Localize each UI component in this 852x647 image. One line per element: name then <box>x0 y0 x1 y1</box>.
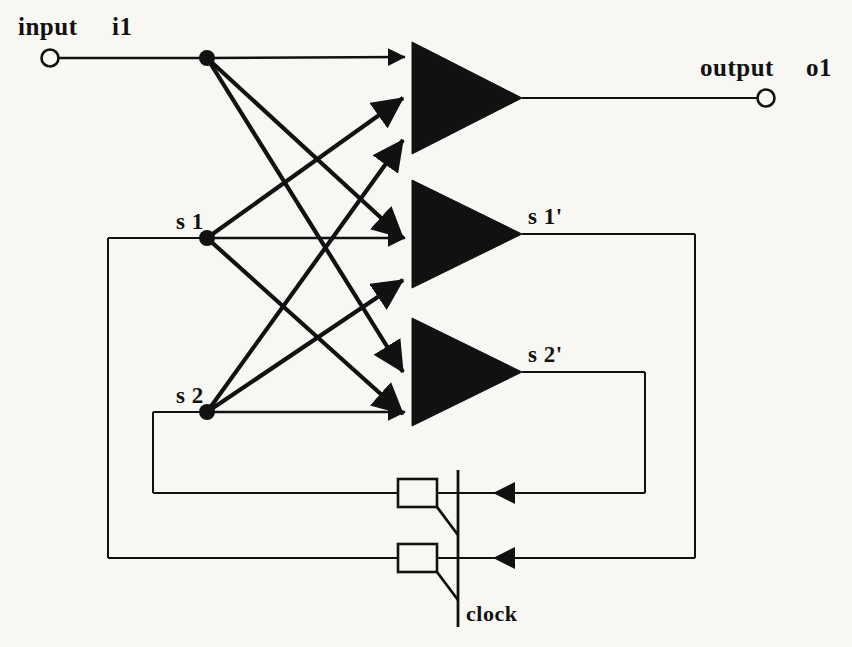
clock-stub-latch-s2 <box>437 507 458 535</box>
wire-i1-to-gate-o1 <box>207 57 405 58</box>
output-label-name: o1 <box>806 55 832 80</box>
latch-s2-body <box>398 479 437 507</box>
state-label-s1: s 1 <box>176 210 204 233</box>
diagram-canvas: input i1 output o1 s 1 s 2 s 1' s 2' clo… <box>0 0 852 647</box>
output-label-word: output <box>700 55 774 80</box>
next-state-label-s2: s 2' <box>528 343 563 366</box>
junction-dot-i1 <box>199 50 215 66</box>
next-state-label-s1: s 1' <box>528 205 563 228</box>
input-label-name: i1 <box>112 14 132 39</box>
clock-label: clock <box>466 603 517 625</box>
input-terminal-i1[interactable] <box>42 50 59 67</box>
state-label-s2: s 2 <box>176 384 204 407</box>
circuit-schematic <box>0 0 852 647</box>
clock-stub-latch-s1 <box>437 572 458 600</box>
gate-o1-body <box>412 42 522 154</box>
wire-i1-to-gate-s1next <box>207 58 403 238</box>
input-label-word: input <box>18 14 77 39</box>
output-terminal-o1[interactable] <box>758 90 775 107</box>
wire-s2-to-gate-s1next <box>207 280 403 412</box>
gate-s1-next-body <box>412 180 522 288</box>
wire-s2-to-gate-o1 <box>207 140 403 412</box>
latch-s1-body <box>398 544 437 572</box>
gate-s2-next-body <box>412 318 522 426</box>
